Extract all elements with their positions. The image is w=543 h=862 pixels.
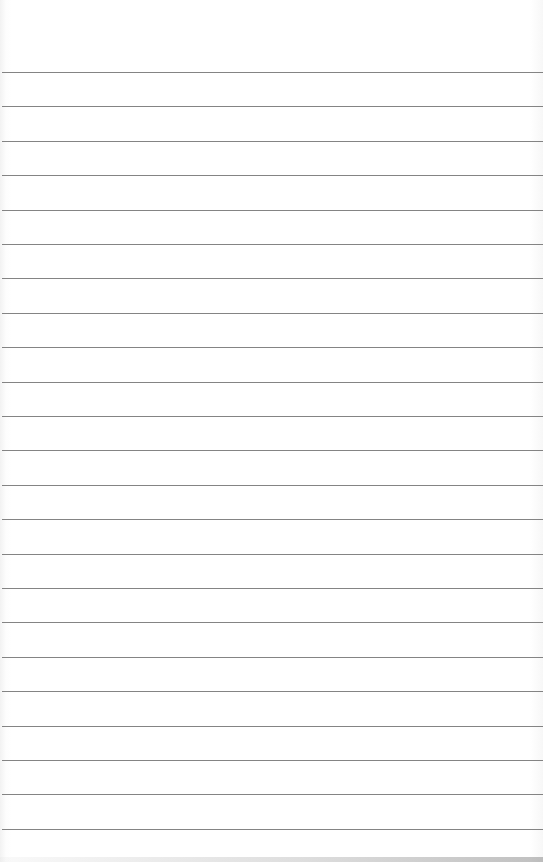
ruled-line [2, 726, 543, 727]
ruled-line [2, 72, 543, 73]
ruled-line [2, 175, 543, 176]
ruled-line [2, 210, 543, 211]
bottom-edge-shadow [0, 857, 543, 862]
ruled-line [2, 450, 543, 451]
ruled-line [2, 416, 543, 417]
ruled-line [2, 485, 543, 486]
ruled-line [2, 347, 543, 348]
ruled-paper-sheet [0, 0, 543, 862]
ruled-line [2, 141, 543, 142]
ruled-line [2, 588, 543, 589]
ruled-line [2, 794, 543, 795]
ruled-line [2, 382, 543, 383]
ruled-line [2, 106, 543, 107]
ruled-line [2, 829, 543, 830]
ruled-line [2, 519, 543, 520]
ruled-line [2, 760, 543, 761]
ruled-line [2, 622, 543, 623]
ruled-line [2, 554, 543, 555]
ruled-line [2, 244, 543, 245]
ruled-line [2, 691, 543, 692]
ruled-line [2, 313, 543, 314]
ruled-line [2, 278, 543, 279]
ruled-line [2, 657, 543, 658]
